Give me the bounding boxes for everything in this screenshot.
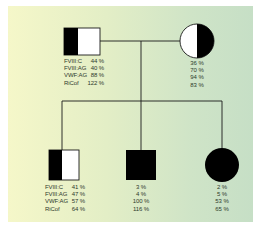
mother-values: 36 % 70 % 94 % 83 % — [186, 60, 208, 89]
child2-fviii-ag: 4 % — [130, 191, 152, 198]
child2-values: 3 % 4 % 100 % 116 % — [130, 184, 152, 213]
father-symbol — [64, 28, 100, 55]
father-row-ricof: RiCof122 % — [64, 80, 104, 87]
child3-symbol — [205, 148, 239, 182]
father-row-fviii-ag: FVIII:AG40 % — [64, 65, 104, 72]
child3-values: 2 % 5 % 53 % 65 % — [211, 184, 233, 213]
child2-vwf-ag: 100 % — [130, 198, 152, 205]
father-labels: FVIII:C44 % FVIII:AG40 % VWF:AG88 % RiCo… — [64, 58, 104, 87]
child2-ricof: 116 % — [130, 206, 152, 213]
child3-vwf-ag: 53 % — [211, 198, 233, 205]
child1-symbol — [49, 150, 79, 180]
father-row-vwf-ag: VWF:AG88 % — [64, 72, 104, 79]
mother-fviii-c: 36 % — [186, 60, 208, 67]
child1-labels: FVIII:C41 % FVIII:AG47 % VWF:AG57 % RiCo… — [45, 184, 85, 213]
mother-ricof: 83 % — [186, 82, 208, 89]
mother-fviii-ag: 70 % — [186, 67, 208, 74]
child2-symbol — [126, 150, 156, 180]
child1-row-vwf-ag: VWF:AG57 % — [45, 198, 85, 205]
father-row-fviii-c: FVIII:C44 % — [64, 58, 104, 65]
child1-row-fviii-c: FVIII:C41 % — [45, 184, 85, 191]
child3-ricof: 65 % — [211, 206, 233, 213]
mother-symbol — [180, 24, 214, 58]
child2-fviii-c: 3 % — [130, 184, 152, 191]
mother-vwf-ag: 94 % — [186, 74, 208, 81]
child1-row-ricof: RiCof64 % — [45, 206, 85, 213]
child3-fviii-c: 2 % — [211, 184, 233, 191]
child3-fviii-ag: 5 % — [211, 191, 233, 198]
child1-row-fviii-ag: FVIII:AG47 % — [45, 191, 85, 198]
